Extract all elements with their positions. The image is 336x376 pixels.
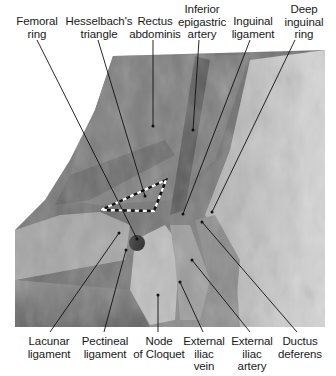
anatomy-figure: Femoral ring Hesselbach's triangle Rectu… bbox=[0, 0, 336, 376]
label-lacunar-ligament: Lacunar ligament bbox=[18, 335, 80, 360]
label-inguinal-ligament: Inguinal ligament bbox=[224, 15, 282, 40]
label-deep-inguinal-ring: Deep inguinal ring bbox=[278, 3, 330, 41]
label-inferior-epigastric-artery: Inferior epigastric artery bbox=[172, 3, 232, 41]
dissection-photo bbox=[0, 0, 336, 376]
label-ductus-deferens: Ductus deferens bbox=[270, 335, 330, 360]
label-femoral-ring: Femoral ring bbox=[6, 15, 68, 40]
